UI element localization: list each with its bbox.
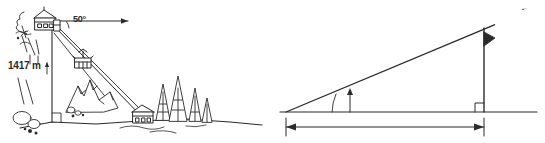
ground-texture (120, 125, 206, 133)
dimension-line-base (286, 118, 484, 136)
right-angle-mark-c (475, 103, 484, 112)
angle-arc-50 (67, 22, 70, 29)
height-arrow-upper (45, 62, 49, 67)
cable-car-gondola (73, 49, 93, 68)
left-figure-svg (0, 0, 272, 143)
label-mask-line-of-sight (328, 16, 435, 76)
dim-arrow-left (286, 124, 296, 131)
angle-of-depression-label: 50° (73, 14, 86, 24)
right-figure-svg (272, 0, 545, 143)
dim-arrow-right (474, 124, 484, 131)
vertical-height-label: 1417 m (8, 60, 41, 71)
right-angle-marker (52, 113, 61, 122)
base-lodge (132, 105, 154, 123)
left-figure-mountain-scene: 50° 1417 m (0, 0, 272, 143)
summit-chalet (34, 7, 60, 31)
figure-root: 50° 1417 m (0, 0, 545, 143)
flag-marker-at-b (484, 32, 495, 46)
right-figure-triangle: A B C 22°40' 18.2 m Line of Sight To Sun (272, 0, 545, 143)
label-mask-to-sun (494, 4, 544, 37)
boulders (13, 112, 40, 135)
evergreen-trees (156, 76, 212, 122)
